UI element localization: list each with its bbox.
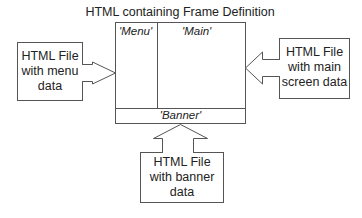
main-frame-label: 'Main' <box>182 25 211 37</box>
main-source-line2: with main <box>279 60 350 75</box>
menu-frame-label: 'Menu' <box>119 25 152 37</box>
main-source-text: HTML File with main screen data <box>279 45 350 90</box>
menu-source-line1: HTML File <box>17 49 83 64</box>
menu-source-line2: with menu <box>17 64 83 79</box>
banner-source-text: HTML File with banner data <box>140 155 224 200</box>
menu-source-line3: data <box>17 79 83 94</box>
banner-frame-label: 'Banner' <box>115 109 246 121</box>
banner-source-line3: data <box>140 185 224 200</box>
banner-arrow <box>154 125 208 153</box>
banner-source-line1: HTML File <box>140 155 224 170</box>
diagram-title: HTML containing Frame Definition <box>60 5 300 19</box>
menu-arrow <box>83 62 116 84</box>
main-source-line3: screen data <box>279 75 350 90</box>
main-source-line1: HTML File <box>279 45 350 60</box>
menu-source-text: HTML File with menu data <box>17 49 83 94</box>
banner-source-line2: with banner <box>140 170 224 185</box>
main-arrow <box>246 52 280 84</box>
